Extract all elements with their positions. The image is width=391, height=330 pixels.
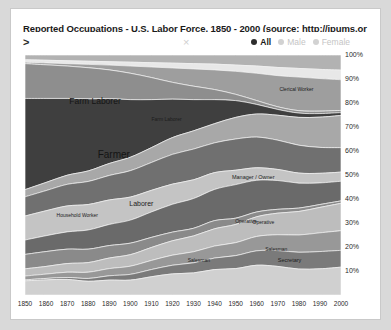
x-axis-tick-label: 1960 <box>249 299 263 309</box>
x-axis-tick-label: 1920 <box>165 299 179 309</box>
x-axis-tick-label: 2000 <box>334 299 348 309</box>
stream-graph-plot[interactable]: Farm LaborerFarm LaborerFarmerClerical W… <box>25 55 341 295</box>
radio-label: All <box>260 36 271 48</box>
radio-icon <box>313 39 319 45</box>
radio-option-male[interactable]: Male <box>278 36 305 48</box>
y-axis-tick-label: 80% <box>345 99 359 107</box>
radio-option-female[interactable]: Female <box>313 36 350 48</box>
screenshot-root: Reported Occupations - U.S. Labor Force,… <box>0 0 391 330</box>
page-title: Reported Occupations - U.S. Labor Force,… <box>23 23 367 32</box>
y-axis-tick-label: 50% <box>345 171 359 179</box>
y-axis-tick-label: 30% <box>345 219 359 227</box>
x-axis-tick-label: 1940 <box>207 299 221 309</box>
y-axis-tick-label: 90% <box>345 75 359 83</box>
y-axis-tick-label: 40% <box>345 195 359 203</box>
radio-option-all[interactable]: All <box>251 36 271 48</box>
y-axis-tick-label: 10% <box>345 267 359 275</box>
x-axis-tick-label: 1860 <box>39 299 53 309</box>
x-axis-tick-label: 1980 <box>292 299 306 309</box>
gender-filter-legend: All Male Female <box>251 36 350 48</box>
x-axis-tick-label: 1870 <box>60 299 74 309</box>
chart-card: Reported Occupations - U.S. Labor Force,… <box>10 8 381 320</box>
radio-label: Female <box>322 36 350 48</box>
window-title-bar: Reported Occupations - U.S. Labor Force,… <box>23 18 374 32</box>
x-axis: 1850186018701880189019001910192019301940… <box>25 299 341 311</box>
chart-toolbar: > × All Male Female <box>23 35 374 51</box>
x-axis-tick-label: 1950 <box>228 299 242 309</box>
y-axis: 100%90%80%70%60%50%40%30%20%10% <box>345 55 379 295</box>
radio-icon <box>251 39 257 45</box>
x-axis-tick-label: 1850 <box>18 299 32 309</box>
x-axis-tick-label: 1930 <box>186 299 200 309</box>
x-axis-tick-label: 1910 <box>144 299 158 309</box>
radio-label: Male <box>287 36 305 48</box>
x-axis-tick-label: 1900 <box>123 299 137 309</box>
x-axis-tick-label: 1890 <box>102 299 116 309</box>
radio-icon <box>278 39 284 45</box>
x-axis-tick-label: 1970 <box>271 299 285 309</box>
expand-caret-icon[interactable]: > <box>23 36 29 49</box>
y-axis-tick-label: 100% <box>345 51 363 59</box>
y-axis-tick-label: 20% <box>345 243 359 251</box>
x-axis-tick-label: 1880 <box>81 299 95 309</box>
close-icon[interactable]: × <box>183 36 189 49</box>
stacked-area-svg <box>25 55 341 295</box>
y-axis-tick-label: 70% <box>345 123 359 131</box>
y-axis-tick-label: 60% <box>345 147 359 155</box>
x-axis-tick-label: 1990 <box>313 299 327 309</box>
